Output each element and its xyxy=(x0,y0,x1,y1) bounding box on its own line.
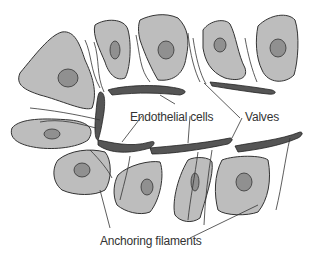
tissue-cell xyxy=(19,32,95,109)
tissue-cell xyxy=(114,162,162,214)
label-valves: Valves xyxy=(245,110,279,124)
diagram-illustration xyxy=(0,0,320,258)
endothelial-cell xyxy=(98,140,154,152)
endothelial-cell xyxy=(150,138,232,154)
label-endothelial-cells: Endothelial cells xyxy=(130,110,213,124)
nucleus xyxy=(214,38,226,52)
endothelial-cell xyxy=(95,92,105,140)
nucleus xyxy=(270,39,286,57)
nucleus xyxy=(141,179,153,195)
endothelial-cell xyxy=(235,132,302,152)
nucleus xyxy=(44,129,60,139)
nucleus xyxy=(74,163,90,177)
lymphatic-capillary-diagram: Endothelial cells Valves Anchoring filam… xyxy=(0,0,320,258)
endothelial-cell xyxy=(210,82,275,94)
label-anchoring-filaments: Anchoring filaments xyxy=(100,234,202,248)
nucleus xyxy=(236,173,252,191)
nucleus xyxy=(158,41,174,59)
nucleus xyxy=(110,41,120,59)
endothelial-cell xyxy=(108,86,185,95)
nucleus xyxy=(58,69,78,87)
